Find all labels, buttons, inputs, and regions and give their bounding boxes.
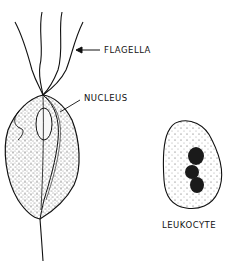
nucleus [36, 108, 52, 140]
flagella [15, 12, 83, 95]
axostyle-tail [40, 219, 43, 261]
flagella-arrow [76, 47, 100, 53]
trichomonas-body [5, 95, 79, 219]
flagella-label: FLAGELLA [104, 45, 151, 55]
leukocyte-label: LEUKOCYTE [162, 220, 216, 230]
nucleus-label: NUCLEUS [84, 93, 128, 103]
leukocyte [163, 121, 222, 209]
